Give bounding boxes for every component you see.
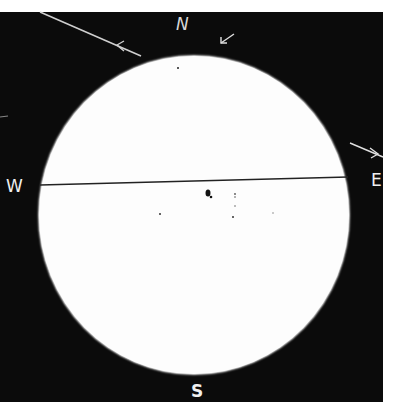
north-arrow-icon [221,34,234,43]
arrow-icon [117,41,124,51]
equator-line [40,177,348,185]
sunspot [234,196,236,198]
sunspot [177,67,179,69]
drawing-annotations [0,0,396,419]
axis-line-right [350,143,383,157]
sunspot [234,193,236,195]
compass-south-label: S [191,383,203,400]
sunspot [159,213,161,215]
sunspot [210,196,213,199]
compass-east-label: E [371,172,382,189]
west-tick-mark [0,116,8,117]
axis-line-top-left [40,12,141,56]
compass-north-label: N [176,16,189,33]
sunspots [159,67,274,218]
compass-west-label: W [6,178,23,195]
sunspot [232,216,234,218]
sunspot [272,212,274,214]
sunspot-group-main [206,190,211,197]
sunspot [234,205,236,207]
